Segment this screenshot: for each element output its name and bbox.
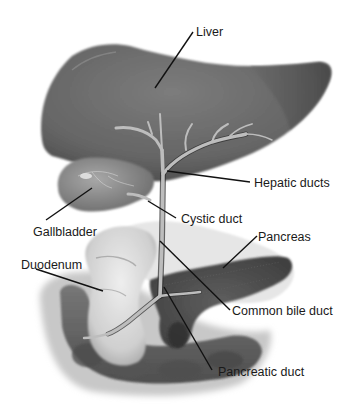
label-duodenum: Duodenum — [21, 259, 82, 272]
label-hepatic-ducts: Hepatic ducts — [254, 177, 330, 190]
label-pancreas: Pancreas — [258, 231, 311, 244]
label-gallbladder: Gallbladder — [33, 226, 97, 239]
label-common-bile-duct: Common bile duct — [232, 305, 333, 318]
biliary-anatomy-illustration — [0, 0, 360, 411]
label-liver: Liver — [196, 26, 223, 39]
label-cystic-duct: Cystic duct — [181, 213, 242, 226]
label-pancreatic-duct: Pancreatic duct — [218, 366, 304, 379]
